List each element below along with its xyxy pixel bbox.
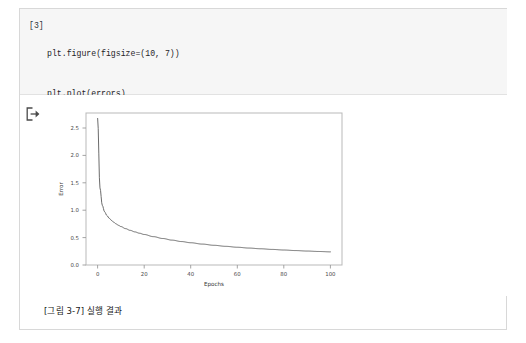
- output-arrow-icon: [26, 107, 42, 121]
- output-cell: 0.0 0.5 1.0 1.5 2.0 2.5: [20, 95, 507, 296]
- x-tick-label: 20: [141, 271, 148, 277]
- x-tick-label: 100: [325, 271, 336, 277]
- error-curve: [98, 118, 331, 251]
- y-tick-label: 2.0: [70, 152, 79, 158]
- notebook-page: [3] plt.figure(figsize=(10, 7)) plt.plot…: [19, 8, 507, 330]
- x-axis-label: Epochs: [204, 281, 224, 288]
- y-tick-label: 2.5: [70, 125, 79, 131]
- x-tick-label: 60: [234, 271, 241, 277]
- x-axis-ticks: [98, 265, 331, 269]
- code-cell[interactable]: [3] plt.figure(figsize=(10, 7)) plt.plot…: [20, 9, 507, 95]
- y-tick-label: 0.5: [70, 235, 79, 241]
- x-tick-label: 0: [96, 271, 100, 277]
- error-vs-epochs-line-chart: 0.0 0.5 1.0 1.5 2.0 2.5: [46, 105, 356, 290]
- y-axis-label: Error: [58, 181, 64, 195]
- y-axis-ticks: [83, 128, 87, 265]
- code-line: plt.figure(figsize=(10, 7)): [47, 47, 180, 60]
- y-tick-label: 0.0: [70, 262, 79, 268]
- y-tick-label: 1.0: [70, 207, 79, 213]
- figure-caption: [그림 3-7] 실행 결과: [44, 304, 122, 316]
- figure-caption-row: [그림 3-7] 실행 결과: [20, 296, 507, 330]
- y-axis-tick-labels: 0.0 0.5 1.0 1.5 2.0 2.5: [70, 125, 79, 268]
- plot-spines: [86, 113, 342, 265]
- x-tick-label: 40: [187, 271, 194, 277]
- code-cell-prompt: [3]: [29, 21, 44, 30]
- y-tick-label: 1.5: [70, 180, 79, 186]
- x-axis-tick-labels: 0 20 40 60 80 100: [96, 271, 336, 277]
- matplotlib-figure: 0.0 0.5 1.0 1.5 2.0 2.5: [46, 105, 356, 290]
- x-tick-label: 80: [280, 271, 287, 277]
